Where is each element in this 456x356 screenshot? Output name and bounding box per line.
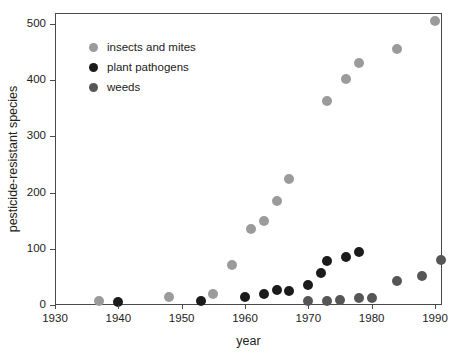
y-axis-tick <box>50 249 55 250</box>
data-point <box>322 296 332 306</box>
data-point <box>259 216 269 226</box>
data-point <box>430 16 440 26</box>
y-axis-tick <box>50 80 55 81</box>
data-point <box>322 256 332 266</box>
x-axis-tick <box>245 305 246 309</box>
x-axis-tick <box>308 305 309 309</box>
legend-item-pathogens: plant pathogens <box>89 61 196 73</box>
insects-legend-marker-icon <box>89 43 98 52</box>
x-axis-label: year <box>55 334 442 348</box>
y-axis-tick <box>50 193 55 194</box>
plot-area: insects and mites plant pathogens weeds <box>55 13 442 305</box>
data-point <box>341 74 351 84</box>
y-tick-label: 400 <box>14 73 46 85</box>
data-point <box>354 58 364 68</box>
data-point <box>335 295 345 305</box>
x-axis-tick <box>182 305 183 309</box>
y-axis-tick <box>50 24 55 25</box>
y-tick-label: 100 <box>14 242 46 254</box>
x-tick-label: 1980 <box>352 312 392 324</box>
data-point <box>354 293 364 303</box>
y-tick-label: 200 <box>14 186 46 198</box>
data-point <box>392 44 402 54</box>
x-axis-tick <box>435 305 436 309</box>
y-axis-label: pesticide-resistant species <box>6 86 20 233</box>
legend-label: plant pathogens <box>107 61 189 73</box>
data-point <box>436 255 446 265</box>
x-tick-label: 1990 <box>415 312 455 324</box>
legend-label: insects and mites <box>107 41 196 53</box>
data-point <box>322 96 332 106</box>
x-tick-label: 1970 <box>288 312 328 324</box>
data-point <box>284 286 294 296</box>
legend-item-weeds: weeds <box>89 81 196 93</box>
legend-item-insects: insects and mites <box>89 41 196 53</box>
data-point <box>94 296 104 306</box>
x-tick-label: 1930 <box>35 312 75 324</box>
data-point <box>303 280 313 290</box>
x-tick-label: 1940 <box>98 312 138 324</box>
legend: insects and mites plant pathogens weeds <box>89 41 196 93</box>
scatter-chart: pesticide-resistant species insects and … <box>0 0 456 356</box>
data-point <box>246 224 256 234</box>
data-point <box>240 292 250 302</box>
weeds-legend-marker-icon <box>89 83 98 92</box>
y-tick-label: 500 <box>14 17 46 29</box>
data-point <box>272 285 282 295</box>
data-point <box>354 247 364 257</box>
pathogens-legend-marker-icon <box>89 63 98 72</box>
data-point <box>341 252 351 262</box>
data-point <box>164 292 174 302</box>
x-tick-label: 1950 <box>162 312 202 324</box>
data-point <box>208 289 218 299</box>
data-point <box>392 276 402 286</box>
data-point <box>316 268 326 278</box>
x-axis-tick <box>118 305 119 309</box>
data-point <box>284 174 294 184</box>
data-point <box>417 271 427 281</box>
y-axis-tick <box>50 136 55 137</box>
y-tick-label: 0 <box>14 298 46 310</box>
x-axis-tick <box>372 305 373 309</box>
data-point <box>196 296 206 306</box>
x-tick-label: 1960 <box>225 312 265 324</box>
data-point <box>367 293 377 303</box>
data-point <box>272 196 282 206</box>
data-point <box>227 260 237 270</box>
legend-label: weeds <box>107 81 140 93</box>
x-axis-tick <box>55 305 56 309</box>
y-axis-tick <box>50 305 55 306</box>
y-tick-label: 300 <box>14 129 46 141</box>
data-point <box>259 289 269 299</box>
